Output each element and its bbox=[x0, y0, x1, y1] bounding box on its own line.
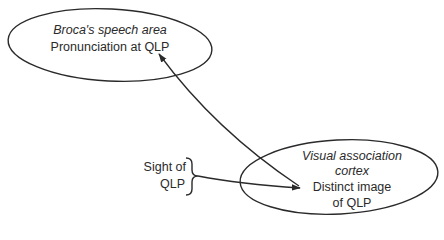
broca-node-subtitle: Pronunciation at QLP bbox=[38, 40, 182, 55]
visual-node-title-line1: Visual association bbox=[292, 149, 412, 164]
input-label-line2: QLP bbox=[130, 177, 185, 192]
visual-node-title-line2: cortex bbox=[292, 164, 412, 179]
brace-icon bbox=[186, 158, 198, 195]
visual-node-subtitle-line1: Distinct image bbox=[300, 180, 404, 195]
broca-node-title: Broca's speech area bbox=[45, 23, 175, 38]
edge-sight-to-visual bbox=[198, 176, 300, 188]
input-label-line1: Sight of bbox=[130, 160, 186, 175]
visual-node-subtitle-line2: of QLP bbox=[300, 196, 404, 211]
